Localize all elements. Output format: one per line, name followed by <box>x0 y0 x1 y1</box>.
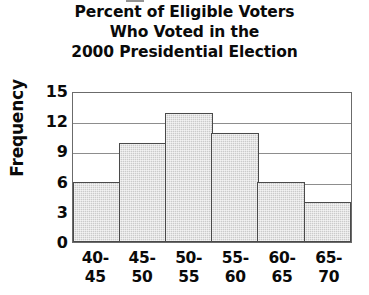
x-axis-tick-line: 60- <box>259 249 306 268</box>
bar-50-55 <box>165 113 213 242</box>
bar-65-70 <box>304 202 352 242</box>
chart-title-line-3: 2000 Presidential Election <box>0 42 369 62</box>
x-axis-tick-line: 70 <box>305 268 352 287</box>
x-axis-tick-line: 60 <box>212 268 259 287</box>
y-axis-tick-3: 3 <box>30 205 68 221</box>
x-axis-tick-45-50: 45-50 <box>119 249 166 287</box>
bar-45-50 <box>119 143 167 242</box>
plot-area <box>72 92 352 243</box>
bar-55-60 <box>211 133 259 242</box>
y-axis-tick-0: 0 <box>30 235 68 251</box>
top-edge-artifact <box>126 0 144 2</box>
x-axis-tick-line: 50- <box>165 249 212 268</box>
x-axis-tick-line: 65 <box>259 268 306 287</box>
x-axis-tick-55-60: 55-60 <box>212 249 259 287</box>
x-axis-tick-line: 65- <box>305 249 352 268</box>
x-axis-tick-65-70: 65-70 <box>305 249 352 287</box>
y-axis-tick-labels: 03691215 <box>30 92 68 243</box>
x-axis-tick-line: 55- <box>212 249 259 268</box>
x-axis-tick-50-55: 50-55 <box>165 249 212 287</box>
y-axis-label: Frequency <box>7 73 27 183</box>
x-axis-tick-line: 55 <box>165 268 212 287</box>
x-axis-tick-line: 45 <box>72 268 119 287</box>
y-axis-tick-12: 12 <box>30 114 68 130</box>
y-axis-tick-6: 6 <box>30 175 68 191</box>
x-axis-tick-line: 45- <box>119 249 166 268</box>
x-axis-tick-40-45: 40-45 <box>72 249 119 287</box>
x-axis-tick-line: 40- <box>72 249 119 268</box>
bar-40-45 <box>73 182 121 242</box>
chart-title-line-1: Percent of Eligible Voters <box>0 2 369 22</box>
x-axis-tick-line: 50 <box>119 268 166 287</box>
bar-60-65 <box>257 182 305 242</box>
x-axis-tick-60-65: 60-65 <box>259 249 306 287</box>
y-axis-tick-15: 15 <box>30 84 68 100</box>
y-axis-tick-9: 9 <box>30 144 68 160</box>
bars-layer <box>73 93 351 242</box>
chart-title-line-2: Who Voted in the <box>0 22 369 42</box>
x-axis-tick-labels: 40-4545-5050-5555-6060-6565-70 <box>72 249 352 287</box>
chart-title: Percent of Eligible Voters Who Voted in … <box>0 2 369 62</box>
